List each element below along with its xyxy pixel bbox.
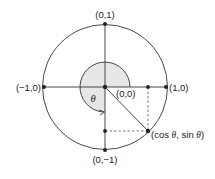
label-left: (−1,0) — [16, 82, 41, 93]
unit-circle-diagram: (0,1) (0,−1) (−1,0) (1,0) (0,0) θ (cos θ… — [0, 0, 215, 179]
label-right: (1,0) — [169, 82, 189, 93]
label-theta: θ — [90, 93, 95, 104]
label-bottom: (0,−1) — [92, 154, 117, 165]
label-top: (0,1) — [95, 9, 115, 20]
point-origin — [103, 85, 107, 89]
point-cos-sin — [146, 129, 150, 133]
point-sin-projection — [103, 129, 107, 133]
point-left — [42, 85, 46, 89]
point-top — [103, 22, 107, 26]
point-right — [164, 85, 168, 89]
label-point: (cos θ, sin θ) — [151, 129, 204, 140]
point-cos-projection — [146, 85, 150, 89]
label-origin: (0,0) — [116, 88, 136, 99]
point-bottom — [103, 148, 107, 152]
